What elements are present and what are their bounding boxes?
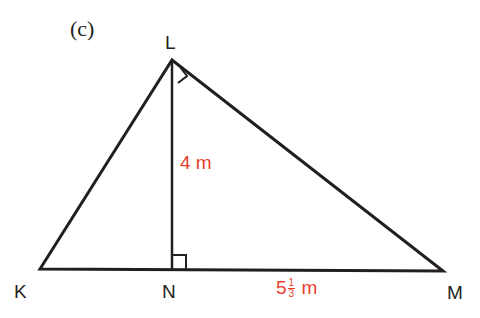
measurement-nm-whole: 5 (276, 277, 287, 298)
triangle-klm (40, 60, 443, 271)
fraction-denominator: 3 (288, 289, 296, 299)
right-angle-mark-n (172, 255, 186, 269)
vertex-label-n: N (162, 282, 176, 301)
measurement-nm-unit: m (301, 277, 317, 298)
vertex-label-m: M (447, 283, 463, 302)
measurement-ln: 4 m (180, 153, 212, 172)
measurement-ln-unit: m (196, 152, 212, 173)
measurement-nm-fraction: 13 (288, 278, 296, 299)
triangle-diagram (0, 0, 480, 318)
part-label: (c) (70, 18, 94, 40)
measurement-nm: 513 m (276, 278, 317, 299)
measurement-ln-value: 4 (180, 152, 191, 173)
vertex-label-k: K (14, 282, 27, 301)
vertex-label-l: L (165, 33, 176, 52)
